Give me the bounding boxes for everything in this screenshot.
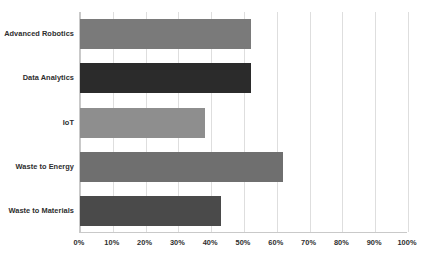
x-tick-70%: 70% [301,238,316,247]
bar-iot[interactable] [80,108,205,138]
bar-waste-to-energy[interactable] [80,152,283,182]
x-tick-50%: 50% [236,238,251,247]
x-tick-30%: 30% [170,238,185,247]
x-tick-90%: 90% [367,238,382,247]
x-tick-60%: 60% [268,238,283,247]
category-label-advanced-robotics: Advanced Robotics [0,29,74,39]
bar-track [80,196,407,226]
x-tick-40%: 40% [203,238,218,247]
category-axis-labels: Advanced RoboticsData AnalyticsIoTWaste … [0,12,74,233]
bar-chart: Advanced RoboticsData AnalyticsIoTWaste … [0,0,427,266]
bar-track [80,152,407,182]
x-tick-100%: 100% [397,238,416,247]
x-tick-0%: 0% [74,238,85,247]
category-label-waste-to-energy: Waste to Energy [0,162,74,172]
bar-data-analytics[interactable] [80,63,251,93]
x-axis-tick-labels: 0%10%20%30%40%50%60%70%80%90%100% [79,238,407,252]
bar-track [80,108,407,138]
plot-area [79,12,407,233]
category-label-waste-to-materials: Waste to Materials [0,206,74,216]
category-label-iot: IoT [0,118,74,128]
x-tick-10%: 10% [104,238,119,247]
gridline-100% [408,12,409,232]
x-tick-20%: 20% [137,238,152,247]
bar-track [80,63,407,93]
bar-waste-to-materials[interactable] [80,196,221,226]
bars-layer [80,12,407,232]
bar-track [80,19,407,49]
x-tick-80%: 80% [334,238,349,247]
category-label-data-analytics: Data Analytics [0,73,74,83]
bar-advanced-robotics[interactable] [80,19,251,49]
